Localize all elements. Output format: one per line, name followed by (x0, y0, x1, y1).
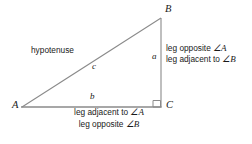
leg-b-description-line-2: leg opposite ∠B (0, 120, 218, 132)
right-triangle-diagram: A B C a b c hypotenuse leg opposite ∠A l… (0, 0, 252, 144)
leg-a-desc-1-prefix: leg opposite (166, 43, 213, 53)
leg-b-desc-1-angle-letter: A (138, 107, 144, 117)
side-label-a: a (152, 52, 157, 61)
leg-b-desc-1-prefix: leg adjacent to (74, 107, 130, 117)
leg-b-desc-2-prefix: leg opposite (79, 119, 126, 129)
angle-symbol-icon: ∠ (213, 43, 221, 53)
leg-a-desc-2-prefix: leg adjacent to (166, 54, 222, 64)
hypotenuse-text-label: hypotenuse (31, 46, 74, 55)
vertex-label-b: B (165, 3, 171, 14)
leg-a-desc-2-angle-letter: B (230, 54, 236, 64)
leg-a-desc-1-angle-letter: A (221, 43, 227, 53)
angle-symbol-icon: ∠ (126, 119, 134, 129)
side-label-b: b (90, 92, 95, 101)
leg-a-description-block: leg opposite ∠A leg adjacent to ∠B (166, 44, 236, 66)
leg-a-description-line-2: leg adjacent to ∠B (166, 55, 236, 66)
right-angle-square-top-icon (153, 101, 161, 108)
right-angle-square-icon (153, 101, 161, 108)
leg-b-desc-2-angle-letter: B (134, 119, 140, 129)
side-label-c: c (92, 62, 96, 71)
leg-b-description-block: leg adjacent to ∠A leg opposite ∠B (0, 108, 218, 131)
